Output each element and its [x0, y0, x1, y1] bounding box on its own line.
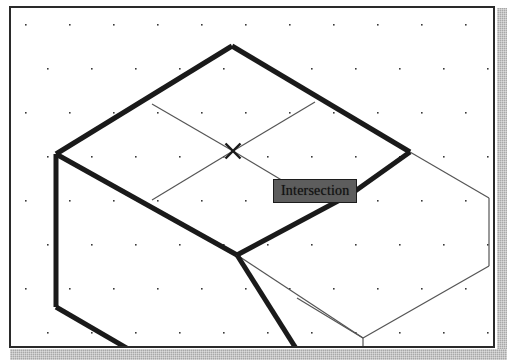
window-drop-shadow-right [497, 8, 507, 360]
model-edge-heavy [56, 154, 237, 255]
grid-dot [399, 244, 401, 246]
viewport-frame[interactable]: Intersection [9, 6, 495, 348]
grid-dot [487, 332, 489, 334]
grid-dot [399, 68, 401, 70]
grid-dot [289, 24, 291, 26]
grid-dot [443, 68, 445, 70]
grid-dot [201, 288, 203, 290]
grid-dot [311, 332, 313, 334]
model-edge-light [152, 151, 233, 200]
grid-dot [157, 288, 159, 290]
grid-dot [377, 24, 379, 26]
grid-dot [465, 112, 467, 114]
grid-dot [245, 288, 247, 290]
grid-dot [333, 24, 335, 26]
grid-dot [69, 24, 71, 26]
model-edge-heavy [351, 152, 410, 194]
grid-dot [333, 112, 335, 114]
grid-dot [25, 200, 27, 202]
grid-dot [113, 24, 115, 26]
grid-dot [487, 244, 489, 246]
grid-dot [267, 244, 269, 246]
grid-dot [487, 156, 489, 158]
grid-dot [311, 244, 313, 246]
model-edge-heavy [237, 194, 351, 255]
grid-dot [47, 68, 49, 70]
grid-dot [91, 68, 93, 70]
grid-dot [487, 68, 489, 70]
model-edge-heavy [56, 307, 130, 346]
grid-dot [223, 68, 225, 70]
grid-dot [223, 332, 225, 334]
grid-dot [47, 244, 49, 246]
grid-dot [25, 24, 27, 26]
grid-dot [179, 156, 181, 158]
wireframe-light-edges [152, 102, 489, 346]
grid-dot [377, 288, 379, 290]
grid-dot [245, 24, 247, 26]
grid-dot [25, 112, 27, 114]
window-drop-shadow-bottom [10, 349, 507, 360]
grid-dot [179, 244, 181, 246]
grid-dot [157, 112, 159, 114]
grid-dot [47, 156, 49, 158]
grid-dot [421, 24, 423, 26]
grid-dot [179, 68, 181, 70]
grid-dot [157, 24, 159, 26]
grid-dot [267, 332, 269, 334]
model-edge-light [410, 152, 489, 198]
snap-tooltip-label: Intersection [281, 183, 349, 198]
viewport-canvas[interactable] [11, 8, 493, 346]
model-edge-light [237, 255, 363, 338]
grid-dot [333, 288, 335, 290]
grid-dot [201, 200, 203, 202]
grid-dot [113, 112, 115, 114]
cad-application-window: Intersection [0, 0, 507, 360]
intersection-snap-marker [226, 144, 241, 159]
grid-dot [421, 112, 423, 114]
model-edge-light [233, 102, 315, 151]
grid-dot [355, 244, 357, 246]
grid-dot [69, 288, 71, 290]
grid-dot [113, 200, 115, 202]
grid-dot [377, 200, 379, 202]
grid-dot [69, 200, 71, 202]
grid-dot [47, 332, 49, 334]
grid-dot [421, 288, 423, 290]
grid-dot [465, 24, 467, 26]
grid-dot [289, 112, 291, 114]
grid-dot [25, 288, 27, 290]
grid-dot [355, 156, 357, 158]
grid-dot [91, 156, 93, 158]
grid-dot [443, 244, 445, 246]
grid-dot [135, 156, 137, 158]
grid-dot [377, 112, 379, 114]
grid-dot [91, 244, 93, 246]
grid-dot [443, 156, 445, 158]
grid-dot [245, 112, 247, 114]
grid-dot [135, 244, 137, 246]
grid-dot [245, 200, 247, 202]
grid-dot [267, 156, 269, 158]
grid-dot [157, 200, 159, 202]
grid-dot [465, 200, 467, 202]
grid-dot [443, 332, 445, 334]
grid-dot [201, 24, 203, 26]
grid-dot [113, 288, 115, 290]
grid-dot [421, 200, 423, 202]
grid-dot [399, 332, 401, 334]
grid-dot [135, 68, 137, 70]
model-edge-light [152, 104, 233, 151]
grid-dot [135, 332, 137, 334]
grid-dot [311, 68, 313, 70]
grid-dot [91, 332, 93, 334]
grid-dot [311, 156, 313, 158]
model-edge-light [363, 266, 489, 338]
model-edge-heavy [56, 46, 232, 154]
grid-dot [179, 332, 181, 334]
grid-dot [355, 68, 357, 70]
grid-dot [69, 112, 71, 114]
grid-dot [465, 288, 467, 290]
grid-dot [201, 112, 203, 114]
snap-tooltip: Intersection [273, 179, 357, 203]
